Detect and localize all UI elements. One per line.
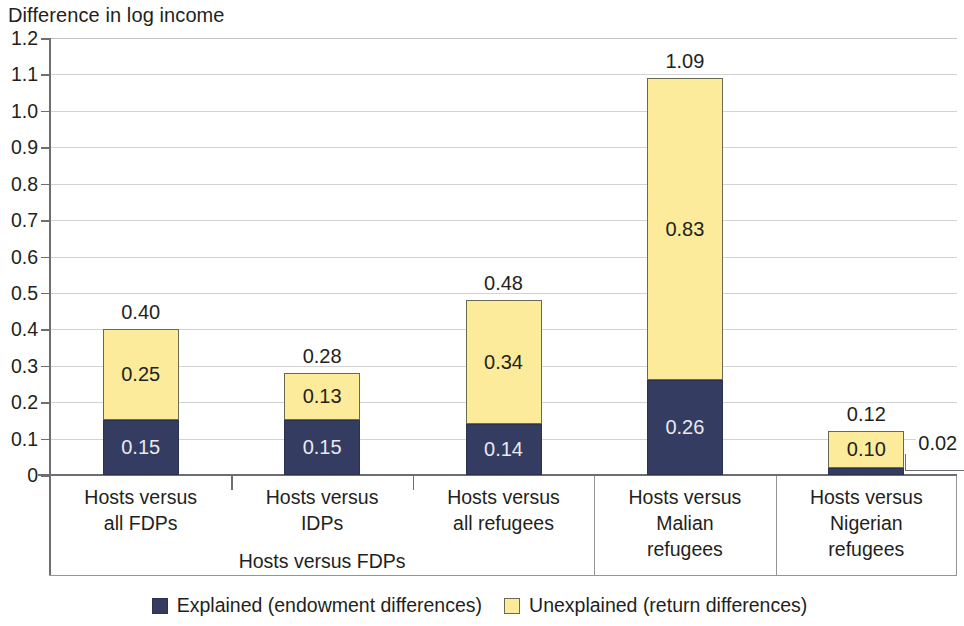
bar-segment-unexplained[interactable]: 0.83 bbox=[647, 78, 723, 380]
y-axis-tick-label: 1.0 bbox=[0, 99, 38, 122]
bar-segment-explained[interactable]: 0.15 bbox=[284, 420, 360, 475]
bar-segment-unexplained[interactable]: 0.13 bbox=[284, 373, 360, 420]
bar-group[interactable]: 0.140.340.48 bbox=[466, 300, 542, 475]
y-axis-tick-label: 0.3 bbox=[0, 354, 38, 377]
bar-segment-unexplained[interactable]: 0.25 bbox=[103, 329, 179, 420]
bar-total-label: 1.09 bbox=[620, 50, 750, 73]
y-axis-tick-label: 1.2 bbox=[0, 27, 38, 50]
y-axis-tick-label: 0.7 bbox=[0, 209, 38, 232]
legend-label-explained: Explained (endowment differences) bbox=[177, 594, 482, 617]
category-band-bottom-edge bbox=[49, 575, 957, 576]
y-axis-tick-label: 0.6 bbox=[0, 245, 38, 268]
bar-segment-unexplained[interactable]: 0.34 bbox=[466, 300, 542, 424]
x-axis-group-label: Hosts versus FDPs bbox=[50, 550, 594, 573]
bar-value-callout-explained: 0.02 bbox=[916, 432, 959, 455]
legend-item-unexplained[interactable]: Unexplained (return differences) bbox=[504, 594, 807, 617]
bar-value-label-unexplained: 0.83 bbox=[665, 218, 704, 241]
bar-segment-explained[interactable]: 0.02 bbox=[828, 468, 904, 475]
x-axis-category-4[interactable]: Hosts versusMalianrefugees bbox=[594, 476, 775, 576]
x-axis-category-tick bbox=[413, 476, 414, 490]
category-band-right-edge bbox=[956, 476, 957, 576]
x-axis-category-label: Hosts versusall FDPs bbox=[50, 484, 231, 536]
bar-value-label-unexplained: 0.13 bbox=[303, 385, 342, 408]
bar-value-label-unexplained: 0.25 bbox=[121, 363, 160, 386]
legend-swatch-unexplained-icon bbox=[504, 598, 520, 614]
bar-group[interactable]: 0.020.100.12 bbox=[828, 431, 904, 475]
bar-value-label-explained: 0.15 bbox=[121, 436, 160, 459]
bar-total-label: 0.12 bbox=[801, 403, 931, 426]
bar-group[interactable]: 0.150.250.40 bbox=[103, 329, 179, 475]
y-axis-tick-label: 0.8 bbox=[0, 172, 38, 195]
bar-total-label: 0.48 bbox=[439, 272, 569, 295]
bar-segment-unexplained[interactable]: 0.10 bbox=[828, 431, 904, 467]
bar-segment-explained[interactable]: 0.14 bbox=[466, 424, 542, 475]
bar-group[interactable]: 0.150.130.28 bbox=[284, 373, 360, 475]
x-axis-category-5[interactable]: Hosts versusNigerianrefugees bbox=[776, 476, 957, 576]
bar-total-label: 0.28 bbox=[257, 345, 387, 368]
chart-title: Difference in log income bbox=[8, 4, 225, 27]
bar-value-label-explained: 0.26 bbox=[665, 416, 704, 439]
y-axis-tick-label: 0 bbox=[0, 464, 38, 487]
x-axis-category-label: Hosts versusNigerianrefugees bbox=[776, 484, 957, 562]
y-axis-tick-label: 0.1 bbox=[0, 427, 38, 450]
y-axis-tick-label: 0.5 bbox=[0, 281, 38, 304]
legend-swatch-explained-icon bbox=[152, 598, 168, 614]
y-axis-tick-label: 1.1 bbox=[0, 63, 38, 86]
legend-item-explained[interactable]: Explained (endowment differences) bbox=[152, 594, 482, 617]
y-axis-tick-label: 0.9 bbox=[0, 136, 38, 159]
y-axis-tick-label: 0.2 bbox=[0, 391, 38, 414]
bar-value-label-unexplained: 0.10 bbox=[847, 438, 886, 461]
bar-value-label-unexplained: 0.34 bbox=[484, 351, 523, 374]
y-axis-tick-label: 0.4 bbox=[0, 318, 38, 341]
bar-value-label-explained: 0.15 bbox=[303, 436, 342, 459]
x-axis-group-separator bbox=[776, 476, 777, 576]
plot-area: 0.150.250.400.150.130.280.140.340.480.26… bbox=[50, 38, 957, 475]
x-axis-group-separator bbox=[594, 476, 595, 576]
x-axis-category-label: Hosts versusMalianrefugees bbox=[594, 484, 775, 562]
x-axis-category-label: Hosts versusall refugees bbox=[413, 484, 594, 536]
legend-label-unexplained: Unexplained (return differences) bbox=[529, 594, 807, 617]
bar-segment-explained[interactable]: 0.15 bbox=[103, 420, 179, 475]
bar-value-label-explained: 0.14 bbox=[484, 438, 523, 461]
bar-value-callout-leader-line bbox=[905, 454, 964, 471]
bar-segment-explained[interactable]: 0.26 bbox=[647, 380, 723, 475]
x-axis-category-tick bbox=[231, 476, 232, 490]
chart-legend: Explained (endowment differences) Unexpl… bbox=[0, 594, 959, 617]
bar-total-label: 0.40 bbox=[76, 301, 206, 324]
bar-group[interactable]: 0.260.831.09 bbox=[647, 78, 723, 475]
x-axis-category-label: Hosts versusIDPs bbox=[231, 484, 412, 536]
